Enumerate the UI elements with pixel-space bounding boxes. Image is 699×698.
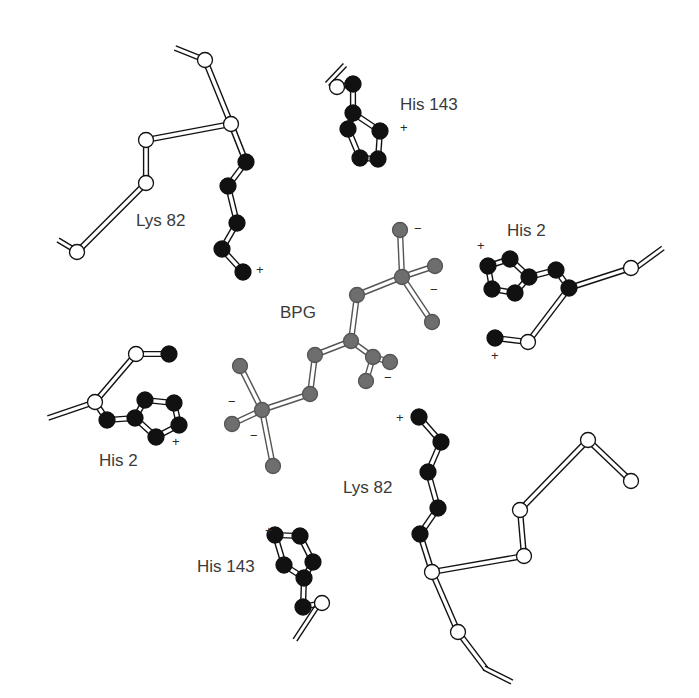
sidechain-atom (99, 412, 115, 428)
bond-line (570, 270, 632, 290)
backbone-atom (224, 117, 239, 132)
bpg-atom (308, 348, 323, 363)
label-his143-top: His 143 (400, 95, 458, 114)
sidechain-atom (433, 434, 449, 450)
sidechain-atom (370, 151, 386, 167)
sidechain-atom (296, 570, 312, 586)
bond-line (586, 442, 629, 483)
bond-line (400, 278, 430, 323)
label-lys82-top: Lys 82 (136, 211, 185, 230)
bond-line (207, 59, 233, 123)
bond-line (590, 438, 633, 479)
bpg-atom (266, 459, 281, 474)
positive-charge: + (396, 410, 404, 425)
sidechain-atom (161, 346, 177, 362)
sidechain-atom (238, 154, 254, 170)
sidechain-atom (171, 417, 187, 433)
sidechain-atom (276, 557, 292, 573)
backbone-atom (451, 625, 466, 640)
bond-line (434, 571, 460, 631)
label-lys82-bottom: Lys 82 (343, 478, 392, 497)
backbone-atom (521, 335, 536, 350)
sidechain-atom (345, 76, 361, 92)
backbone-atom (88, 395, 103, 410)
sidechain-atom (521, 269, 537, 285)
backbone-atom (139, 176, 154, 191)
sidechain-atom (430, 500, 446, 516)
sidechain-atom (137, 392, 153, 408)
bpg-atom (233, 359, 248, 374)
bpg-atom (359, 374, 374, 389)
negative-charge: − (430, 282, 438, 297)
bpg-atom (395, 270, 410, 285)
bond-line (97, 356, 138, 404)
bpg-atom (383, 355, 398, 370)
sidechain-atom (561, 280, 577, 296)
label-his2-left: His 2 (99, 451, 138, 470)
negative-charge: − (228, 394, 236, 409)
sidechain-atom (127, 410, 143, 426)
positive-charge: + (265, 523, 273, 538)
sidechain-atom (372, 123, 388, 139)
backbone-atom (624, 474, 639, 489)
bond-line (264, 410, 275, 466)
sidechain-atom (412, 526, 428, 542)
bpg-atom (350, 288, 365, 303)
sidechain-atom (487, 330, 503, 346)
label-his143-bottom: His 143 (197, 557, 255, 576)
sidechain-atom (166, 395, 182, 411)
bond-line (568, 266, 630, 286)
label-his2-right: His 2 (507, 221, 546, 240)
sidechain-atom (235, 264, 251, 280)
negative-charge: − (414, 221, 422, 236)
sidechain-atom (484, 281, 500, 297)
bond-line (430, 573, 456, 633)
backbone-atom (198, 53, 213, 68)
sidechain-atom (148, 429, 164, 445)
bpg-atom (255, 403, 270, 418)
sidechain-atom (295, 599, 311, 615)
bond-line (522, 442, 590, 512)
bonds-layer (75, 59, 632, 670)
bond-line (530, 289, 571, 343)
bpg-atom (393, 223, 408, 238)
bpg-atom (425, 315, 440, 330)
bpg-atom (428, 259, 443, 274)
sidechain-atom (480, 258, 496, 274)
sidechain-atom (502, 251, 518, 267)
bond-line (203, 61, 229, 125)
positive-charge: + (477, 238, 485, 253)
sidechain-atom (507, 285, 523, 301)
bond-line (526, 287, 567, 341)
negative-charge: − (250, 428, 258, 443)
bond-line (260, 410, 271, 466)
sidechain-atom (411, 409, 427, 425)
positive-charge: + (172, 434, 180, 449)
backbone-atom (129, 347, 144, 362)
bpg-atom (303, 387, 318, 402)
backbone-atom (70, 245, 85, 260)
bpg-atom (225, 417, 240, 432)
label-bpg: BPG (280, 303, 316, 322)
positive-charge: + (256, 262, 264, 277)
backbone-atom (315, 596, 330, 611)
sidechain-atom (352, 150, 368, 166)
backbone-atom (517, 549, 532, 564)
sidechain-atom (345, 105, 361, 121)
positive-charge: + (400, 120, 408, 135)
sidechain-atom (340, 121, 356, 137)
sidechain-atom (214, 241, 230, 257)
bpg-atom (344, 334, 359, 349)
bpg-atom (366, 350, 381, 365)
negative-charge: − (384, 370, 392, 385)
bond-line (146, 122, 231, 138)
sidechain-atom (420, 464, 436, 480)
bond-line (432, 554, 524, 570)
backbone-atom (513, 503, 528, 518)
bond-line (75, 181, 144, 250)
backbone-atom (330, 80, 345, 95)
sidechain-atom (292, 528, 308, 544)
bond-line (93, 352, 134, 400)
backbone-atom (581, 433, 596, 448)
backbone-atom (624, 261, 639, 276)
